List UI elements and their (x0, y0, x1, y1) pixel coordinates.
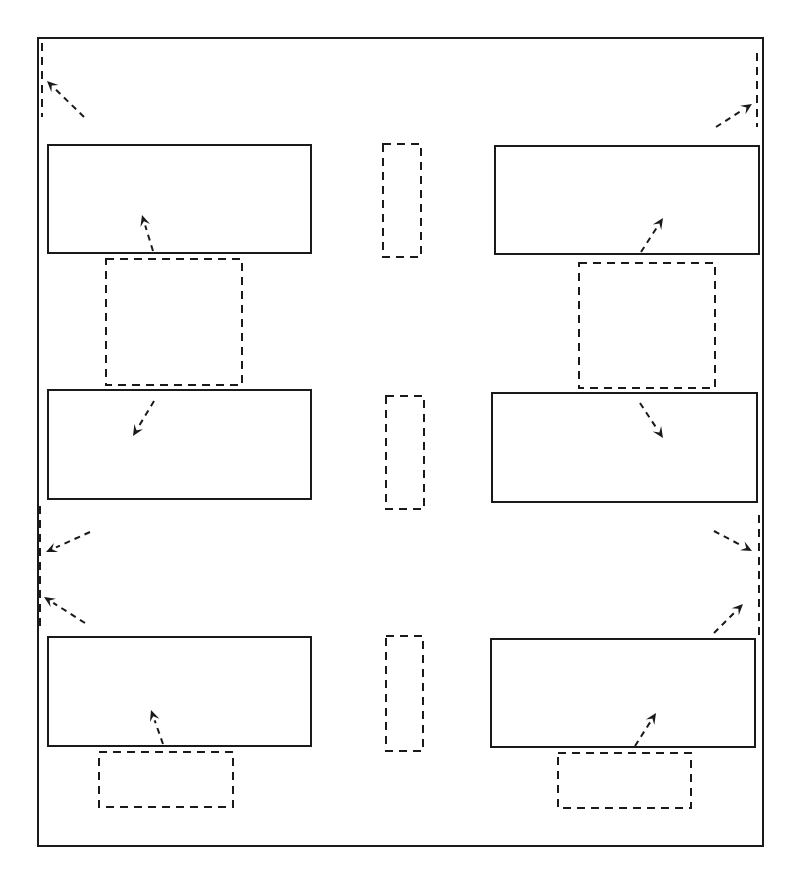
arrowhead-icon (133, 424, 143, 436)
arrow-into-right-middle-box (640, 403, 663, 438)
box-left-middle (48, 390, 311, 499)
arrow-shaft (56, 532, 90, 547)
box-left-top (48, 145, 311, 253)
arrow-to-right-top-edge (716, 104, 752, 127)
arrow-shaft (641, 227, 657, 252)
arrow-shaft (155, 720, 163, 744)
arrow-shaft (714, 612, 735, 633)
arrow-shaft (714, 531, 742, 546)
box-right-middle (492, 393, 757, 502)
arrow-shaft (139, 401, 154, 427)
dashed-left-upper (106, 259, 242, 385)
arrow-into-left-middle-box (133, 401, 154, 436)
dashed-boxes (99, 144, 715, 808)
arrow-into-right-bottom-box (635, 713, 656, 746)
dashed-center-middle (386, 396, 424, 509)
arrowhead-icon (140, 215, 150, 227)
arrow-to-left-middle-edge-a (46, 532, 90, 552)
arrow-shaft (716, 110, 743, 127)
arrowhead-icon (740, 104, 752, 114)
arrow-shaft (55, 89, 84, 117)
dashed-right-lower (558, 753, 691, 808)
dashed-right-upper (579, 263, 715, 388)
dashed-center-bottom (386, 636, 423, 751)
box-right-top (495, 146, 759, 254)
dashed-left-lower (99, 752, 233, 807)
arrow-into-right-top-box (641, 218, 663, 252)
arrow-shaft (145, 226, 153, 251)
dashed-edge-lines (40, 43, 759, 636)
arrow-shaft (640, 403, 657, 429)
floor-plan-diagram (0, 0, 797, 875)
arrow-to-left-middle-edge-b (44, 597, 85, 623)
arrow-to-left-top-edge (47, 81, 84, 117)
arrowhead-icon (740, 541, 752, 551)
diagram-frame (38, 38, 763, 846)
box-left-bottom (48, 637, 311, 746)
dashed-center-top (383, 144, 421, 257)
arrow-into-left-top-box (140, 215, 153, 251)
arrowhead-icon (653, 426, 663, 438)
arrow-to-right-middle-edge-b (714, 604, 743, 633)
arrow-to-right-middle-edge-a (714, 531, 752, 551)
arrow-shaft (53, 603, 85, 623)
arrowhead-icon (646, 713, 656, 725)
movement-arrows (44, 81, 752, 746)
box-right-bottom (491, 639, 755, 747)
arrowhead-icon (44, 597, 56, 607)
arrow-shaft (635, 722, 650, 746)
solid-boxes (48, 145, 759, 747)
arrow-into-left-bottom-box (150, 710, 163, 744)
arrowhead-icon (150, 710, 159, 722)
arrowhead-icon (653, 218, 663, 230)
